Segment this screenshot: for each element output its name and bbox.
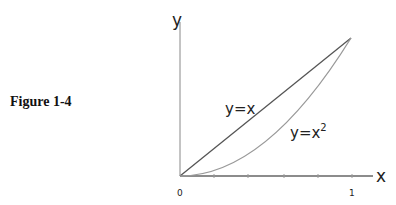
x-tick-0: 0: [177, 188, 183, 198]
chart: y x 0 1 y=x y=x2: [0, 0, 396, 205]
x-tick-1: 1: [349, 188, 355, 198]
label-y-equals-x-squared: y=x2: [290, 122, 327, 142]
x-axis-label: x: [376, 166, 386, 186]
series-y-equals-x: [180, 38, 351, 176]
y-axis-label: y: [172, 10, 182, 30]
label-y-equals-x: y=x: [225, 100, 255, 118]
